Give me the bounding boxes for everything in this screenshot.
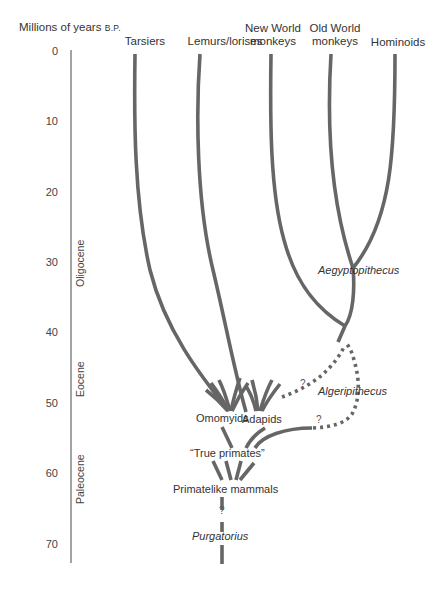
fan-true-primates-2	[226, 461, 231, 480]
branch-aegyptopithecus-trunk	[345, 268, 354, 326]
label-adapids: Adapids	[242, 413, 282, 425]
uncertain-mark-upper: ?	[300, 378, 306, 389]
uncertain-mark-lower: ?	[316, 414, 322, 425]
label-algeripithecus: Algeripithecus	[318, 385, 387, 397]
phylogeny-tree	[0, 0, 439, 591]
label-primatelike-mammals: Primatelike mammals	[173, 483, 278, 495]
label-omomyids: Omomyids	[196, 412, 249, 424]
fan-true-primates-1	[213, 461, 222, 480]
uncertain-mark-purgatorius: ?	[219, 505, 225, 516]
branch-trunk-stub	[338, 326, 345, 342]
branch-tarsiers	[135, 54, 228, 410]
label-purgatorius: Purgatorius	[192, 530, 248, 542]
branch-lemurs	[198, 54, 246, 412]
label-true-primates: “True primates”	[190, 447, 265, 459]
label-aegyptopithecus: Aegyptopithecus	[318, 264, 399, 276]
branch-old-world-main	[330, 54, 353, 268]
stem-omomyids	[222, 427, 232, 448]
fan-true-primates-4	[240, 463, 254, 480]
branch-hominoids	[353, 54, 395, 268]
